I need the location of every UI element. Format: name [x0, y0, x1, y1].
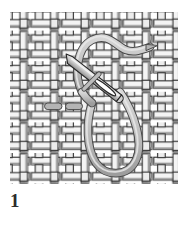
stitch-illustration	[0, 0, 186, 226]
stitch-diagram-figure: 1	[0, 0, 186, 226]
figure-number-label: 1	[10, 191, 20, 210]
